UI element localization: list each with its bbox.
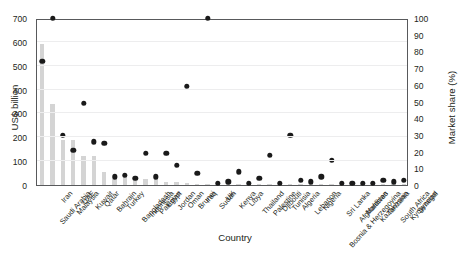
plot-area — [36, 19, 408, 186]
data-point — [50, 15, 55, 20]
data-point — [391, 179, 396, 184]
data-point — [380, 177, 385, 182]
data-point — [70, 147, 75, 152]
y-axis-right-title: Market share (%) — [446, 60, 457, 156]
data-point — [339, 181, 344, 186]
y-axis-right-tick-label: 10 — [414, 164, 454, 174]
data-point — [101, 141, 106, 146]
data-point — [360, 181, 365, 186]
data-point — [370, 181, 375, 186]
data-point — [256, 176, 261, 181]
data-point — [277, 181, 282, 186]
y-axis-left-tick-label: 100 — [0, 157, 27, 167]
gridline — [37, 89, 407, 90]
data-point — [174, 162, 179, 167]
data-point — [246, 181, 251, 186]
y-axis-right-tick-label: 100 — [414, 14, 454, 24]
data-point — [153, 174, 158, 179]
data-point — [132, 176, 137, 181]
data-point — [225, 179, 230, 184]
data-point — [318, 174, 323, 179]
y-axis-left-title: US$ billion — [9, 68, 20, 148]
data-point — [349, 181, 354, 186]
data-point — [81, 100, 86, 105]
gridline — [37, 136, 407, 137]
y-axis-left-tick-label: 600 — [0, 38, 27, 48]
data-point — [122, 172, 127, 177]
data-point — [401, 177, 406, 182]
data-point — [163, 151, 168, 156]
gridline — [37, 112, 407, 113]
data-point — [298, 177, 303, 182]
y-axis-right-tick-label: 90 — [414, 31, 454, 41]
data-point — [39, 59, 44, 64]
data-point — [267, 152, 272, 157]
chart-figure: 0100200300400500600700 01020304050607080… — [0, 0, 470, 264]
y-axis-left-tick-label: 700 — [0, 14, 27, 24]
y-axis-left-tick-label: 0 — [0, 181, 27, 191]
gridline — [37, 65, 407, 66]
data-point — [194, 171, 199, 176]
data-point — [91, 139, 96, 144]
x-axis-tick-label: Iran — [59, 189, 74, 204]
data-point — [143, 151, 148, 156]
data-point — [205, 15, 210, 20]
y-axis-right-tick-label: 80 — [414, 47, 454, 57]
x-axis-title: Country — [0, 232, 470, 243]
data-point — [215, 181, 220, 186]
gridline — [37, 160, 407, 161]
data-point — [236, 169, 241, 174]
gridline — [37, 41, 407, 42]
data-point — [308, 179, 313, 184]
data-point — [112, 174, 117, 179]
